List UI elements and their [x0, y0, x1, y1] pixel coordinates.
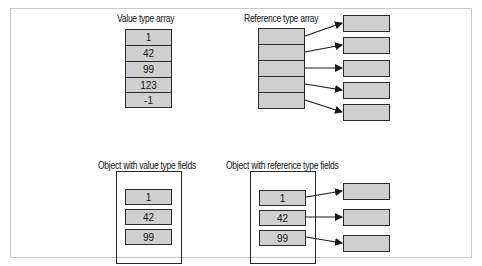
diagram-canvas: Value type array 1 42 99 123 -1 Referenc… [0, 0, 482, 266]
reference-arrows [0, 0, 482, 266]
